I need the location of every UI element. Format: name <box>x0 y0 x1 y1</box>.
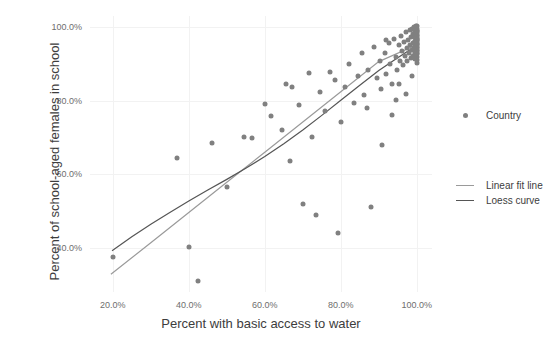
data-point <box>390 113 395 118</box>
x-axis-title: Percent with basic access to water <box>90 316 432 331</box>
legend-item-linear-fit[interactable]: Linear fit line <box>452 180 556 191</box>
data-point <box>335 231 340 236</box>
data-point <box>196 279 201 284</box>
data-point <box>379 142 384 147</box>
legend-line-swatch-linear <box>452 185 478 187</box>
linear-fit-line <box>111 45 417 275</box>
data-point <box>110 255 115 260</box>
data-point <box>372 44 377 49</box>
data-point <box>355 74 360 79</box>
data-point <box>364 106 369 111</box>
data-point <box>306 70 311 75</box>
x-tick-label: 20.0% <box>100 300 126 310</box>
data-point <box>396 42 401 47</box>
data-point <box>398 33 403 38</box>
x-tick-label: 80.0% <box>328 300 354 310</box>
data-point <box>404 92 409 97</box>
data-point <box>369 204 374 209</box>
data-point <box>290 85 295 90</box>
legend-point-swatch <box>452 113 478 118</box>
x-tick-label: 40.0% <box>176 300 202 310</box>
data-point <box>379 86 384 91</box>
data-point <box>382 50 387 55</box>
data-point <box>338 119 343 124</box>
data-point <box>396 81 401 86</box>
y-axis-title: Percent of school-aged females in school <box>47 12 62 312</box>
data-point <box>249 136 254 141</box>
legend-item-country[interactable]: Country <box>452 110 556 121</box>
data-point <box>328 69 333 74</box>
plot-area <box>90 16 432 292</box>
legend-points: Country <box>452 110 556 125</box>
data-point <box>314 213 319 218</box>
data-point <box>414 44 419 49</box>
data-point <box>410 73 415 78</box>
data-point <box>388 61 393 66</box>
data-point <box>317 89 322 94</box>
x-tick-label: 60.0% <box>252 300 278 310</box>
data-point <box>362 92 367 97</box>
data-point <box>175 155 180 160</box>
chart-root: 20.0%40.0%60.0%80.0%100.0% 40.0%60.0%80.… <box>0 0 558 355</box>
data-point <box>333 78 338 83</box>
legend-line-swatch-loess <box>452 200 478 202</box>
data-point <box>262 102 267 107</box>
data-point <box>241 135 246 140</box>
data-point <box>287 158 292 163</box>
data-point <box>343 85 348 90</box>
data-point <box>390 82 395 87</box>
data-point <box>414 61 419 66</box>
data-point <box>414 36 419 41</box>
legend-item-loess[interactable]: Loess curve <box>452 195 556 206</box>
data-point <box>279 127 284 132</box>
data-point <box>366 67 371 72</box>
data-point <box>414 50 419 55</box>
data-point <box>392 36 397 41</box>
x-tick-label: 100.0% <box>402 300 433 310</box>
data-point <box>383 38 388 43</box>
data-point <box>414 29 419 34</box>
legend-label-linear-fit: Linear fit line <box>486 180 543 191</box>
data-point <box>359 50 364 55</box>
data-point <box>209 140 214 145</box>
data-point <box>374 75 379 80</box>
loess-curve <box>112 45 417 250</box>
data-point <box>352 101 357 106</box>
data-point <box>186 245 191 250</box>
legend-label-country: Country <box>486 110 521 121</box>
data-point <box>384 72 389 77</box>
data-point <box>309 135 314 140</box>
data-point <box>395 67 400 72</box>
legend-lines: Linear fit line Loess curve <box>452 180 556 210</box>
data-point <box>377 58 382 63</box>
data-point <box>300 202 305 207</box>
data-point <box>322 108 327 113</box>
fit-lines <box>90 16 432 292</box>
data-point <box>283 81 288 86</box>
data-point <box>401 63 406 68</box>
legend-label-loess: Loess curve <box>486 195 540 206</box>
data-point <box>393 97 398 102</box>
data-point <box>224 184 229 189</box>
data-point <box>297 103 302 108</box>
data-point <box>347 61 352 66</box>
data-point <box>268 114 273 119</box>
